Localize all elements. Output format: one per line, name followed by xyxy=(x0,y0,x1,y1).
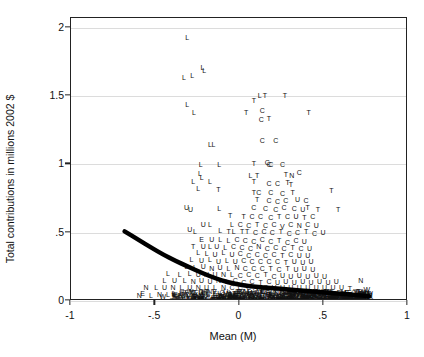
scatter-point: C xyxy=(251,204,256,211)
scatter-point: V xyxy=(339,293,344,299)
scatter-point: L xyxy=(208,221,212,228)
scatter-point: L xyxy=(199,160,203,167)
scatter-point: C xyxy=(272,221,277,228)
scatter-point: E xyxy=(347,290,352,297)
scatter-point: L xyxy=(190,71,194,78)
scatter-point: C xyxy=(292,205,297,212)
scatter-point: T xyxy=(252,159,256,166)
scatter-point: T xyxy=(226,227,230,234)
scatter-point: C xyxy=(241,256,246,263)
scatter-point: L xyxy=(208,177,212,184)
y-axis-label: Total contributions in millions 2002 $ xyxy=(4,64,16,294)
scatter-point: L xyxy=(202,66,206,73)
scatter-point: C xyxy=(250,213,255,220)
y-tick-mark xyxy=(65,231,70,232)
x-tick-label: 1 xyxy=(387,309,424,321)
scatter-point: W xyxy=(313,287,320,294)
scatter-point: L xyxy=(218,235,222,242)
scatter-point: N xyxy=(289,171,294,178)
scatter-point: N xyxy=(358,276,363,283)
scatter-point: C xyxy=(310,212,315,219)
scatter-point: U xyxy=(301,293,306,299)
scatter-point: L xyxy=(258,92,262,99)
scatter-point: C xyxy=(275,257,280,264)
scatter-point: C xyxy=(258,212,263,219)
scatter-point: W xyxy=(327,292,334,299)
y-tick-label: 2 xyxy=(30,21,64,33)
scatter-point: L xyxy=(208,256,212,263)
scatter-point: T xyxy=(289,181,293,188)
x-axis-label-text: Mean (M) xyxy=(209,330,256,342)
scatter-point: L xyxy=(225,256,229,263)
scatter-point: C xyxy=(288,250,293,257)
scatter-point: T xyxy=(306,108,310,115)
scatter-point: T xyxy=(263,91,267,98)
scatter-point: C xyxy=(251,264,256,271)
scatter-point: W xyxy=(289,287,296,294)
scatter-point: L xyxy=(185,34,189,41)
scatter-point: L xyxy=(222,249,226,256)
scatter-point: C xyxy=(270,228,275,235)
x-tick-label: -1 xyxy=(50,309,90,321)
scatter-point: C xyxy=(285,212,290,219)
scatter-point: E xyxy=(173,291,178,298)
scatter-point: T xyxy=(242,212,246,219)
x-tick-mark xyxy=(322,300,323,305)
scatter-point: T xyxy=(336,205,340,212)
scatter-point: T xyxy=(245,228,249,235)
scatter-point: C xyxy=(288,221,293,228)
scatter-point: T xyxy=(306,204,310,211)
scatter-point: U xyxy=(292,258,297,265)
scatter-point: L xyxy=(193,263,197,270)
scatter-point: C xyxy=(295,228,300,235)
scatter-point: V xyxy=(201,287,206,294)
scatter-points: LLLLLLLLTTTCTTCTLLCCLLTCCCCLLLTTNCLLTCCT… xyxy=(71,18,406,299)
scatter-point: N xyxy=(204,270,209,277)
scatter-point: U xyxy=(309,258,314,265)
scatter-point: C xyxy=(260,136,265,143)
scatter-point: C xyxy=(261,228,266,235)
x-tick-label: 0 xyxy=(219,309,259,321)
plot-area: LLLLLLLLTTTCTTCTLLCCLLTCCCCLLLTTNCLLTCCT… xyxy=(70,17,407,300)
scatter-point: T xyxy=(267,115,271,122)
scatter-point: C xyxy=(270,297,275,299)
scatter-point: C xyxy=(253,228,258,235)
scatter-point: T xyxy=(240,227,244,234)
scatter-point: C xyxy=(273,205,278,212)
scatter-point: T xyxy=(304,228,308,235)
scatter-point: U xyxy=(188,205,193,212)
scatter-point: E xyxy=(174,297,179,299)
y-tick-label: 0 xyxy=(30,294,64,306)
scatter-point: T xyxy=(316,206,320,213)
scatter-point: C xyxy=(266,179,271,186)
scatter-point: U xyxy=(162,283,167,290)
scatter-point: C xyxy=(268,188,273,195)
scatter-point: T xyxy=(279,228,283,235)
scatter-point: E xyxy=(356,292,361,299)
scatter-point: L xyxy=(182,74,186,81)
y-tick-mark xyxy=(65,26,70,27)
scatter-point: C xyxy=(283,196,288,203)
scatter-point: T xyxy=(252,188,256,195)
scatter-point: T xyxy=(232,291,236,298)
scatter-point: V xyxy=(206,291,211,298)
scatter-point: E xyxy=(199,235,204,242)
scatter-point: C xyxy=(275,197,280,204)
scatter-point: U xyxy=(286,297,291,299)
scatter-point: N xyxy=(234,263,239,270)
scatter-point: T xyxy=(252,178,256,185)
scatter-point: C xyxy=(263,205,268,212)
y-tick-label: .5 xyxy=(30,226,64,238)
scatter-point: E xyxy=(192,292,197,299)
scatter-point: T xyxy=(255,196,259,203)
scatter-point: E xyxy=(140,290,145,297)
scatter-point: C xyxy=(256,188,261,195)
scatter-point: L xyxy=(193,227,197,234)
scatter-point: T xyxy=(277,213,281,220)
x-tick-label: .5 xyxy=(303,309,343,321)
scatter-point: L xyxy=(196,249,200,256)
scatter-point: U xyxy=(201,220,206,227)
scatter-point: T xyxy=(283,92,287,99)
scatter-point: C xyxy=(231,243,236,250)
x-axis-label: Mean (M) xyxy=(0,330,424,342)
